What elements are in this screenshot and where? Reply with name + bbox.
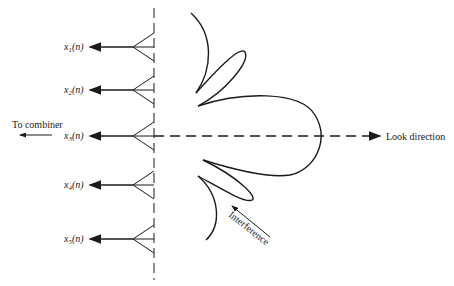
diagram-svg: x1(n) x2(n) x3(n) x4(n) x5(n) To combine…: [0, 0, 454, 286]
sensor-label-3: x3(n): [63, 130, 84, 143]
sensor-label-4: x4(n): [63, 179, 84, 192]
beamformer-diagram: x1(n) x2(n) x3(n) x4(n) x5(n) To combine…: [0, 0, 454, 286]
to-combiner-label: To combiner: [12, 119, 63, 130]
interference-label: Interference: [227, 209, 272, 248]
sensor-label-1: x1(n): [63, 41, 84, 54]
sensor-label-5: x5(n): [63, 233, 84, 246]
antenna-icon: [133, 225, 154, 253]
look-direction-label: Look direction: [386, 131, 445, 142]
sensor-2: [90, 76, 154, 104]
sensor-5: [90, 225, 154, 253]
antenna-icon: [133, 33, 154, 61]
antenna-icon: [133, 122, 154, 150]
lower-sidelobe-outer: [198, 176, 216, 240]
sensor-1: [90, 33, 154, 61]
upper-sidelobe-outer: [191, 13, 209, 93]
sensor-3: [90, 122, 154, 150]
sensor-label-2: x2(n): [63, 84, 84, 97]
beam-pattern: [191, 13, 321, 240]
antenna-icon: [133, 76, 154, 104]
antenna-icon: [133, 171, 154, 199]
sensor-4: [90, 171, 154, 199]
